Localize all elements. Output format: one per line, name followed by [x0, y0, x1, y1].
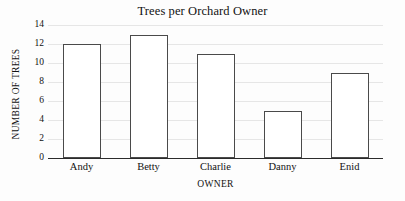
- y-tick-label: 4: [24, 115, 44, 125]
- y-tick-label: 2: [24, 134, 44, 144]
- y-tick-label: 6: [24, 96, 44, 106]
- bar-chart: Trees per Orchard Owner NUMBER OF TREES …: [0, 0, 405, 201]
- x-tick-label: Danny: [249, 161, 316, 172]
- bar-danny: [264, 111, 302, 159]
- plot-area: [48, 25, 383, 158]
- y-axis-title-text: NUMBER OF TREES: [11, 49, 21, 140]
- y-tick-label: 0: [24, 153, 44, 163]
- x-axis-title: OWNER: [48, 179, 383, 189]
- bar-andy: [63, 44, 101, 158]
- bar-charlie: [197, 54, 235, 159]
- x-tick-label: Betty: [115, 161, 182, 172]
- y-tick-label: 14: [24, 20, 44, 30]
- x-tick-label: Andy: [48, 161, 115, 172]
- y-tick-label: 12: [24, 39, 44, 49]
- x-tick-label: Enid: [316, 161, 383, 172]
- x-axis-line: [48, 158, 383, 159]
- x-tick-label: Charlie: [182, 161, 249, 172]
- y-axis-tick-labels: 02468101214: [22, 25, 44, 158]
- x-axis-tick-labels: AndyBettyCharlieDannyEnid: [48, 161, 383, 177]
- chart-title: Trees per Orchard Owner: [0, 4, 405, 19]
- y-tick-label: 10: [24, 58, 44, 68]
- bar-enid: [331, 73, 369, 159]
- bars-layer: [48, 25, 383, 158]
- bar-betty: [130, 35, 168, 159]
- y-tick-label: 8: [24, 77, 44, 87]
